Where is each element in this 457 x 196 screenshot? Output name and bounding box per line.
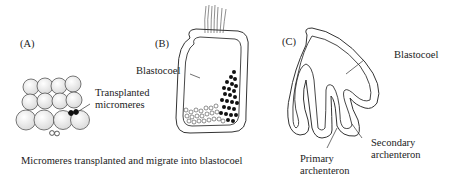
- panel-c: (C) Blastocoel Secondary archenteron Pri…: [282, 28, 438, 176]
- secondary-archenteron-label-1: Secondary: [371, 137, 416, 148]
- primary-archenteron-label-2: archenteron: [300, 165, 350, 176]
- transplanted-label-1: Transplanted: [95, 87, 150, 98]
- host-micromeres: [50, 131, 60, 136]
- panel-b-label: (B): [155, 38, 170, 50]
- figure-caption: Micromeres transplanted and migrate into…: [21, 155, 242, 166]
- panel-a-label: (A): [20, 38, 35, 50]
- primary-archenteron-label-1: Primary: [300, 153, 335, 164]
- pointer-line: [190, 74, 200, 78]
- embryo-outer-wall-c: [288, 28, 379, 138]
- transplanted-label-2: micromeres: [95, 99, 145, 110]
- panel-b: (B) Blastocoel: [136, 5, 248, 133]
- migrated-micromeres: [219, 70, 239, 123]
- secondary-archenteron-label-2: archenteron: [371, 149, 421, 160]
- panel-a: (A) Transplanted micr: [16, 38, 150, 136]
- panel-c-label: (C): [282, 36, 297, 48]
- embryo-cell-cluster: [16, 76, 90, 130]
- cilia: [205, 5, 226, 33]
- blastocoel-label-b: Blastocoel: [136, 65, 180, 76]
- diagram: (A) Transplanted micr: [0, 0, 457, 196]
- host-mesenchyme-cells: [184, 104, 225, 124]
- pointer-line: [346, 60, 364, 74]
- blastocoel-label-c: Blastocoel: [394, 49, 438, 60]
